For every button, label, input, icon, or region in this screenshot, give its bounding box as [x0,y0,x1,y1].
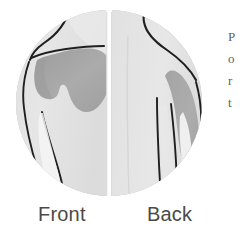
margin-text-line-4: t [228,92,242,114]
label-back: Back [147,203,192,226]
shoulder-pain-figure: Front Back P o r t [0,0,242,238]
margin-cutoff-text: P o r t [228,26,242,114]
back-panel [112,8,212,206]
front-panel [3,8,110,204]
margin-text-line-1: P [228,26,242,48]
back-elbow-highlight [182,162,190,188]
panel-divider [107,8,113,200]
label-front: Front [38,203,86,226]
margin-text-line-3: r [228,70,242,92]
anatomy-illustration [0,0,242,238]
margin-text-line-2: o [228,48,242,70]
